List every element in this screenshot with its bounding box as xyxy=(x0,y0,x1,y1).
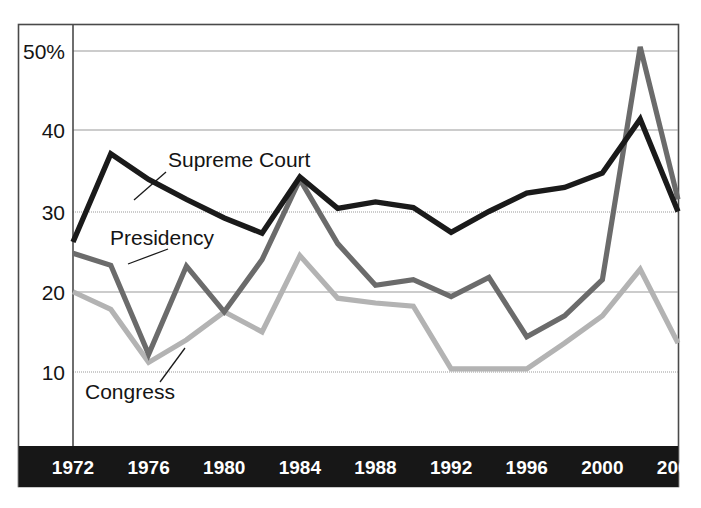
xtick-label-1996: 1996 xyxy=(506,457,548,478)
ytick-label-10: 10 xyxy=(42,361,65,384)
xtick-label-1984: 1984 xyxy=(279,457,322,478)
xtick-label-1992: 1992 xyxy=(430,457,472,478)
ytick-label-30: 30 xyxy=(42,201,65,224)
x-axis-band-background xyxy=(19,446,678,487)
series-label-supreme-court: Supreme Court xyxy=(168,148,311,171)
ytick-label-40: 40 xyxy=(42,119,65,142)
xtick-label-2000: 2000 xyxy=(581,457,623,478)
x-axis-band: 197219761980198419881992199620002004 xyxy=(19,446,700,487)
series-label-presidency: Presidency xyxy=(110,226,214,249)
xtick-label-1972: 1972 xyxy=(52,457,94,478)
xtick-label-1988: 1988 xyxy=(354,457,396,478)
xtick-label-1976: 1976 xyxy=(127,457,169,478)
chart-container: 50% 40 30 20 10 Supreme Court Presidency… xyxy=(0,0,701,508)
ytick-label-20: 20 xyxy=(42,281,65,304)
xtick-label-1980: 1980 xyxy=(203,457,245,478)
series-label-congress: Congress xyxy=(85,380,175,403)
xtick-label-2004: 2004 xyxy=(657,457,700,478)
ytick-label-50: 50% xyxy=(23,40,65,63)
line-chart: 50% 40 30 20 10 Supreme Court Presidency… xyxy=(0,0,701,508)
x-axis-tick-labels: 197219761980198419881992199620002004 xyxy=(52,457,700,478)
